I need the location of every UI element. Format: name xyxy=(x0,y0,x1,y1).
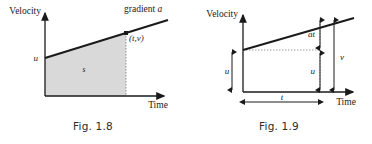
point-label-tv: (t,v) xyxy=(129,33,144,43)
shaded-area-s xyxy=(45,33,126,96)
figure-sheet: Velocity Time gradient a u s (t,v) Fig. … xyxy=(0,0,372,144)
figure-1-8-graphic: Velocity Time gradient a u s (t,v) xyxy=(0,0,186,120)
dimension-label-t: t xyxy=(281,92,284,102)
area-label-s: s xyxy=(83,65,86,74)
intercept-label-u: u xyxy=(34,53,39,63)
dimension-label-v: v xyxy=(340,52,344,62)
y-axis-label: Velocity xyxy=(206,9,238,19)
figure-1-8-caption: Fig. 1.8 xyxy=(0,120,186,132)
dimension-label-u-left: u xyxy=(225,66,230,76)
x-axis-label: Time xyxy=(148,100,168,110)
dimension-label-u-inner: u xyxy=(311,66,316,76)
figure-1-9-graphic: u at u v t Velocity Time xyxy=(186,0,372,120)
figure-1-9: u at u v t Velocity Time Fig. 1.9 xyxy=(186,0,372,144)
velocity-line xyxy=(243,18,354,50)
dimension-label-at: at xyxy=(308,29,316,39)
point-marker-tv xyxy=(124,31,128,35)
y-axis-label: Velocity xyxy=(9,6,41,16)
figure-1-9-caption: Fig. 1.9 xyxy=(186,120,372,132)
gradient-word: gradient xyxy=(124,4,158,14)
figure-1-8: Velocity Time gradient a u s (t,v) Fig. … xyxy=(0,0,186,144)
gradient-label: gradient a xyxy=(124,4,163,14)
x-axis-label: Time xyxy=(336,97,356,107)
